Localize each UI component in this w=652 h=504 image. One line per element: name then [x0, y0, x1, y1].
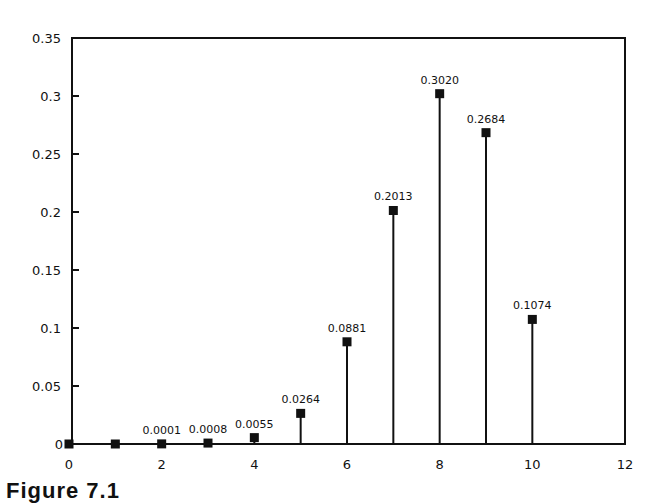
square-marker	[528, 315, 537, 324]
square-marker	[111, 440, 120, 449]
x-tick-label: 8	[436, 457, 444, 472]
data-label: 0.0881	[328, 322, 367, 335]
y-tick-label: 0.2	[40, 205, 61, 220]
x-axis: 024681012	[65, 457, 633, 472]
y-tick-label: 0.05	[32, 379, 61, 394]
y-tick-label: 0.15	[32, 263, 61, 278]
data-label: 0.3020	[420, 74, 459, 87]
data-label: 0.0264	[281, 393, 320, 406]
data-point: 0.1074	[513, 299, 552, 444]
data-point: 0.2684	[467, 113, 506, 444]
square-marker	[65, 440, 74, 449]
data-label: 0.0001	[142, 424, 181, 437]
x-tick-label: 0	[65, 457, 73, 472]
y-tick-label: 0.1	[40, 321, 61, 336]
figure-caption: Figure 7.1	[6, 478, 120, 504]
data-point: 0.3020	[420, 74, 459, 444]
data-label: 0.2684	[467, 113, 506, 126]
data-point	[111, 440, 120, 449]
y-tick-label: 0.35	[32, 31, 61, 46]
data-point	[65, 440, 74, 449]
data-point: 0.0264	[281, 393, 320, 444]
data-label: 0.0055	[235, 418, 274, 431]
y-tick-label: 0.25	[32, 147, 61, 162]
x-tick-label: 10	[524, 457, 541, 472]
data-series: 0.00010.00080.00550.02640.08810.20130.30…	[65, 74, 552, 449]
square-marker	[296, 409, 305, 418]
square-marker	[389, 206, 398, 215]
plot-border	[72, 38, 625, 444]
x-tick-label: 4	[250, 457, 258, 472]
data-point: 0.2013	[374, 190, 413, 444]
square-marker	[435, 89, 444, 98]
data-point: 0.0881	[328, 322, 367, 444]
x-tick-label: 2	[158, 457, 166, 472]
data-label: 0.0008	[189, 423, 228, 436]
y-tick-label: 0.3	[40, 89, 61, 104]
x-tick-label: 6	[343, 457, 351, 472]
data-label: 0.1074	[513, 299, 552, 312]
x-tick-label: 12	[617, 457, 634, 472]
data-point: 0.0055	[235, 418, 274, 444]
square-marker	[250, 433, 259, 442]
data-label: 0.2013	[374, 190, 413, 203]
square-marker	[204, 439, 213, 448]
y-tick-label: 0	[55, 437, 63, 452]
square-marker	[343, 337, 352, 346]
square-marker	[157, 439, 166, 448]
square-marker	[482, 128, 491, 137]
